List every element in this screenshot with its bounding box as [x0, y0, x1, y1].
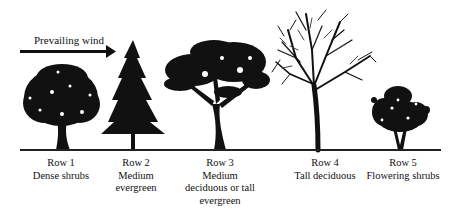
- dense-shrub-icon: [23, 64, 100, 150]
- row-2-desc-line-1: Medium: [115, 170, 156, 183]
- flowering-shrub-icon: [371, 86, 430, 150]
- row-2-desc-line-2: evergreen: [115, 182, 156, 195]
- row-5-label: Row 5 Flowering shrubs: [366, 157, 439, 182]
- row-4-title: Row 4: [294, 157, 355, 170]
- row-5-desc: Flowering shrubs: [366, 170, 439, 183]
- row-2-label: Row 2 Medium evergreen: [115, 157, 156, 195]
- row-5-title: Row 5: [366, 157, 439, 170]
- row-3-desc-line-2: deciduous or tall: [185, 182, 255, 195]
- tall-deciduous-tree-icon: [272, 10, 376, 150]
- wind-arrow-icon: [20, 45, 116, 58]
- evergreen-tree-icon: [101, 40, 165, 150]
- spreading-tree-icon: [164, 40, 270, 150]
- row-1-label: Row 1 Dense shrubs: [33, 157, 89, 182]
- row-2-title: Row 2: [115, 157, 156, 170]
- row-3-desc-line-1: Medium: [185, 170, 255, 183]
- row-4-label: Row 4 Tall deciduous: [294, 157, 355, 182]
- row-3-desc-line-3: evergreen: [185, 195, 255, 208]
- row-4-desc: Tall deciduous: [294, 170, 355, 183]
- ground-line: [20, 149, 441, 151]
- row-3-title: Row 3: [185, 157, 255, 170]
- row-1-title: Row 1: [33, 157, 89, 170]
- row-3-label: Row 3 Medium deciduous or tall evergreen: [185, 157, 255, 207]
- row-1-desc: Dense shrubs: [33, 170, 89, 183]
